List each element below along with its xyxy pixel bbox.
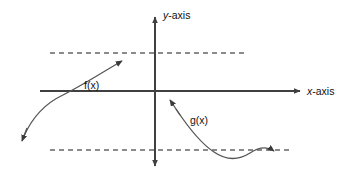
f-curve-tail-arrow [22,128,27,141]
f-curve-path [24,61,122,136]
x-axis-label: x-axis [306,85,334,97]
function-graph-figure: y-axis x-axis f(x) g(x) [0,0,348,182]
f-curve-label: f(x) [84,79,99,91]
y-axis-label-suffix: -axis [168,9,190,21]
g-curve-label: g(x) [190,114,208,126]
graph-canvas: y-axis x-axis f(x) g(x) [0,0,348,182]
y-axis-label: y-axis [162,9,190,21]
x-axis-label-suffix: -axis [312,85,334,97]
g-curve-head-arrow [170,100,180,115]
